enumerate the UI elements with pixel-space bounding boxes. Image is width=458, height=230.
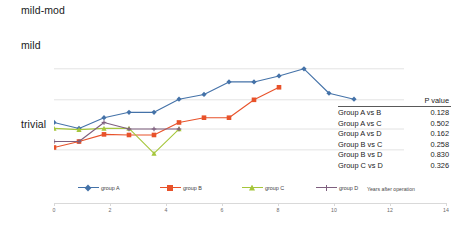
p-value-number: 0.830 bbox=[413, 150, 451, 161]
data-point bbox=[201, 92, 206, 97]
x-tick-label: 10 bbox=[331, 207, 337, 213]
x-tick-label: 14 bbox=[443, 207, 449, 213]
data-point bbox=[252, 98, 257, 103]
p-value-number: 0.258 bbox=[413, 140, 451, 151]
x-axis-title: Years after operation bbox=[367, 186, 415, 192]
data-point bbox=[251, 79, 256, 84]
x-tick-mark bbox=[278, 203, 279, 206]
data-point bbox=[102, 132, 107, 137]
p-value-header-label: P value bbox=[413, 96, 451, 105]
data-point bbox=[202, 115, 207, 120]
legend-label: group D bbox=[339, 185, 358, 191]
p-value-row: Group A vs C0.502 bbox=[338, 119, 451, 130]
x-axis-line bbox=[54, 203, 446, 204]
legend-label: group C bbox=[265, 185, 284, 191]
p-value-table-rule bbox=[338, 106, 451, 107]
x-tick-mark bbox=[446, 203, 447, 206]
data-point bbox=[177, 120, 182, 125]
p-value-number: 0.162 bbox=[413, 129, 451, 140]
x-tick-label: 0 bbox=[53, 207, 56, 213]
x-tick-mark bbox=[390, 203, 391, 206]
data-series-layer bbox=[54, 66, 357, 156]
data-point bbox=[277, 85, 282, 90]
legend-label: group B bbox=[183, 185, 202, 191]
x-tick-mark bbox=[334, 203, 335, 206]
data-point bbox=[151, 110, 156, 115]
p-value-table-body: Group A vs B0.128Group A vs C0.502Group … bbox=[338, 108, 451, 172]
data-point bbox=[227, 115, 232, 120]
data-point bbox=[152, 127, 157, 132]
legend-label: group A bbox=[101, 185, 120, 191]
y-axis-label-mild: mild bbox=[21, 39, 41, 51]
x-tick-mark bbox=[222, 203, 223, 206]
data-point bbox=[127, 133, 132, 138]
p-value-row: Group A vs D0.162 bbox=[338, 129, 451, 140]
p-value-comparison-label: Group B vs C bbox=[338, 140, 382, 151]
p-value-row: Group C vs D0.326 bbox=[338, 161, 451, 172]
p-value-comparison-label: Group A vs B bbox=[338, 108, 381, 119]
chart-figure: mild-mod mild trivial group Agroup Bgrou… bbox=[0, 0, 458, 230]
p-value-comparison-label: Group A vs C bbox=[338, 119, 382, 130]
series-group-d bbox=[54, 120, 181, 144]
x-tick-mark bbox=[166, 203, 167, 206]
chart-legend: group Agroup Bgroup Cgroup D bbox=[54, 181, 354, 194]
x-tick-label: 6 bbox=[221, 207, 224, 213]
legend-item-group-c[interactable]: group C bbox=[242, 181, 284, 194]
data-point bbox=[152, 133, 157, 138]
p-value-row: Group A vs B0.128 bbox=[338, 108, 451, 119]
legend-swatch-icon bbox=[78, 183, 99, 192]
x-tick-mark bbox=[54, 203, 55, 206]
data-point bbox=[101, 115, 106, 120]
p-value-comparison-label: Group C vs D bbox=[338, 161, 383, 172]
data-point bbox=[54, 139, 56, 144]
data-point bbox=[126, 110, 131, 115]
data-point bbox=[54, 120, 57, 125]
p-value-table: P value Group A vs B0.128Group A vs C0.5… bbox=[338, 96, 451, 172]
y-axis-label-trivial: trivial bbox=[21, 118, 46, 130]
data-point bbox=[276, 73, 281, 78]
legend-swatch-icon bbox=[316, 183, 337, 192]
p-value-comparison-label: Group B vs D bbox=[338, 150, 382, 161]
legend-item-group-b[interactable]: group B bbox=[160, 181, 202, 194]
p-value-row: Group B vs D0.830 bbox=[338, 150, 451, 161]
data-point bbox=[54, 145, 56, 150]
p-value-number: 0.128 bbox=[413, 108, 451, 119]
p-value-table-header: P value bbox=[338, 96, 451, 106]
x-tick-label: 8 bbox=[277, 207, 280, 213]
legend-swatch-icon bbox=[160, 183, 181, 192]
x-tick-label: 12 bbox=[387, 207, 393, 213]
legend-item-group-d[interactable]: group D bbox=[316, 181, 358, 194]
legend-item-group-a[interactable]: group A bbox=[78, 181, 120, 194]
p-value-row: Group B vs C0.258 bbox=[338, 140, 451, 151]
data-point bbox=[176, 97, 181, 102]
x-tick-label: 4 bbox=[165, 207, 168, 213]
p-value-number: 0.502 bbox=[413, 119, 451, 130]
p-value-number: 0.326 bbox=[413, 161, 451, 172]
data-point bbox=[226, 79, 231, 84]
p-value-comparison-label: Group A vs D bbox=[338, 129, 382, 140]
series-group-a bbox=[54, 66, 357, 131]
legend-swatch-icon bbox=[242, 183, 263, 192]
x-tick-mark bbox=[110, 203, 111, 206]
x-tick-label: 2 bbox=[109, 207, 112, 213]
series-line bbox=[54, 87, 279, 147]
